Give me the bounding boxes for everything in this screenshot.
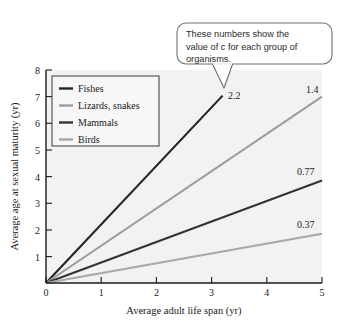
legend-label-lizards-snakes: Lizards, snakes	[78, 100, 140, 111]
chart-figure: 8 7 6 5 4 3 2 1 0 1 2 3 4 5 Average adul…	[0, 0, 346, 327]
value-label-mammals: 0.77	[297, 166, 315, 177]
legend-box	[52, 76, 159, 146]
y-tick-labels: 8 7 6 5 4 3 2 1	[35, 65, 40, 263]
x-tick-label: 2	[154, 287, 159, 298]
y-tick-label: 4	[35, 172, 40, 183]
y-axis-title: Average age at sexual maturity (yr)	[9, 102, 21, 251]
callout-line-1: These numbers show the	[186, 29, 289, 39]
x-tick-label: 1	[99, 287, 104, 298]
y-tick-label: 1	[35, 252, 40, 263]
x-tick-label: 0	[44, 287, 49, 298]
y-tick-label: 3	[35, 198, 40, 209]
y-tick-label: 7	[35, 92, 40, 103]
y-tick-label: 5	[35, 145, 40, 156]
legend-label-birds: Birds	[78, 134, 100, 145]
callout-line-2-part-c: for each group of	[225, 42, 297, 52]
value-label-fishes: 2.2	[228, 90, 241, 101]
value-label-birds: 0.37	[297, 219, 315, 230]
x-tick-label: 4	[264, 287, 269, 298]
y-tick-label: 6	[35, 118, 40, 129]
callout-line-3: organisms.	[186, 54, 231, 64]
legend: Fishes Lizards, snakes Mammals Birds	[52, 76, 159, 146]
callout-line-2-part-a: value of	[186, 42, 221, 52]
value-label-lizards-snakes: 1.4	[306, 84, 319, 95]
x-axis-title: Average adult life span (yr)	[126, 305, 242, 317]
y-tick-label: 2	[35, 225, 40, 236]
x-tick-label: 3	[209, 287, 214, 298]
x-tick-label: 5	[320, 287, 325, 298]
y-tick-label: 8	[35, 65, 40, 76]
legend-label-mammals: Mammals	[78, 117, 118, 128]
legend-label-fishes: Fishes	[78, 83, 104, 94]
x-tick-labels: 0 1 2 3 4 5	[44, 287, 325, 298]
chart-canvas: 8 7 6 5 4 3 2 1 0 1 2 3 4 5 Average adul…	[0, 0, 346, 327]
callout-line-2: value of c for each group of	[186, 42, 298, 52]
